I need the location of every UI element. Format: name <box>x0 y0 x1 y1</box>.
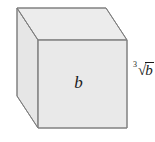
radical-sign-icon: √ <box>133 63 146 78</box>
front-face-label-text: b <box>74 73 83 92</box>
radicand-label: b <box>145 62 154 78</box>
cube-drawing <box>0 0 155 142</box>
front-face-label: b <box>0 74 155 91</box>
cube-figure: b 3√b <box>0 0 155 142</box>
cube-root-radical: 3√b <box>133 62 154 78</box>
edge-length-label: 3√b <box>133 62 154 78</box>
